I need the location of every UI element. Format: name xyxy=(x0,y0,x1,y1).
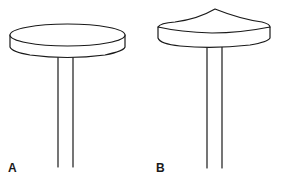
panel-label-b: B xyxy=(156,162,165,174)
panel-b-drawing xyxy=(158,9,270,168)
stem-a xyxy=(58,57,73,167)
disc-b-cone-top xyxy=(158,9,270,33)
stem-b xyxy=(207,46,222,168)
panel-a-drawing xyxy=(10,24,125,167)
panel-label-a: A xyxy=(8,162,17,174)
diagram-canvas xyxy=(0,0,281,179)
flat-disc-a xyxy=(10,24,125,58)
disc-a-top xyxy=(10,24,125,46)
conical-disc-b xyxy=(158,9,270,47)
